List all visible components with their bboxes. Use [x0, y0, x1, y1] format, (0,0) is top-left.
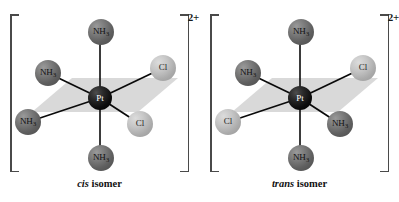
ligand-axial-top: NH3 [88, 19, 114, 45]
trans-caption-rest: isomer [297, 178, 327, 189]
ligand-equatorial-lower-right: Cl [127, 111, 153, 137]
ligand-equatorial-upper-left: NH3 [235, 60, 261, 86]
isomer-figure: 2+ NH3 NH3 Cl NH3 Cl NH3 [0, 0, 399, 202]
center-atom-pt: Pt [288, 86, 312, 110]
ligand-equatorial-upper-left: NH3 [35, 60, 61, 86]
ligand-equatorial-lower-right: NH3 [327, 111, 353, 137]
ligand-equatorial-upper-right: Cl [150, 55, 176, 81]
ligand-equatorial-lower-left: Cl [215, 109, 241, 135]
ligand-equatorial-upper-right: Cl [350, 55, 376, 81]
cis-caption-emphasis: cis [77, 178, 89, 189]
ligand-axial-bottom: NH3 [288, 145, 314, 171]
trans-caption: trans isomer [200, 178, 399, 189]
cis-caption: cis isomer [0, 178, 199, 189]
center-atom-pt: Pt [88, 86, 112, 110]
trans-complex: 2+ NH3 NH3 Cl Cl NH3 NH3 Pt [200, 0, 399, 202]
ligand-equatorial-lower-left: NH3 [15, 109, 41, 135]
cis-complex: 2+ NH3 NH3 Cl NH3 Cl NH3 [0, 0, 199, 202]
trans-caption-emphasis: trans [272, 178, 294, 189]
cis-caption-rest: isomer [91, 178, 121, 189]
ligand-axial-top: NH3 [288, 19, 314, 45]
ligand-axial-bottom: NH3 [88, 145, 114, 171]
